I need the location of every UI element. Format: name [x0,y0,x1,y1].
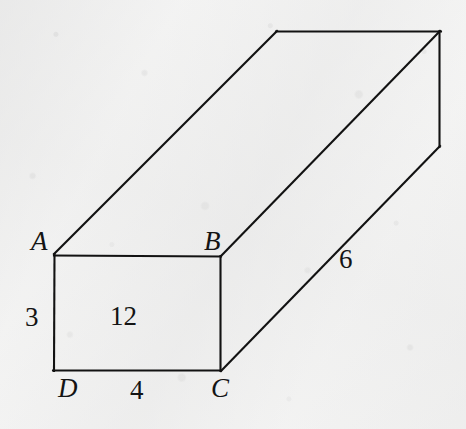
dimension-label-face-area: 12 [110,303,137,330]
vertex-label-b: B [204,228,221,255]
diagram-page: A B C D 3 4 6 12 [0,0,466,429]
vertex-label-a: A [31,228,48,255]
vertex-label-d: D [58,375,78,402]
edge-C-to-back-bottom-right [221,146,440,371]
edge-AD [54,254,55,371]
dimension-label-width: 4 [130,377,144,404]
edge-A-to-back-top-left [54,31,277,254]
vertex-label-c: C [211,375,229,402]
rectangular-prism-figure [0,0,466,429]
dimension-label-height: 3 [25,304,39,331]
dimension-label-depth: 6 [339,246,353,273]
edge-AB [54,256,221,257]
edge-B-to-back-top-right [221,31,440,256]
